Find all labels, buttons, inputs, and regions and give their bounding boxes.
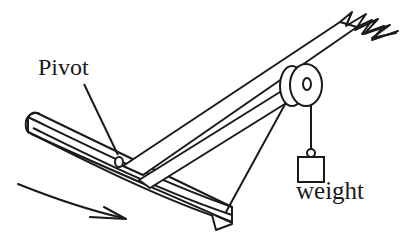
diagram-canvas bbox=[0, 0, 403, 248]
pulley-axle-hole bbox=[303, 78, 311, 90]
motion-arrow bbox=[18, 184, 126, 219]
weight-hanging-ring bbox=[307, 149, 315, 157]
pulley-wheel bbox=[280, 64, 322, 106]
pivot-label: Pivot bbox=[38, 55, 89, 79]
lever-beam-body bbox=[123, 22, 357, 175]
pivot-point bbox=[115, 157, 123, 167]
weight-label: weight bbox=[296, 178, 364, 203]
motion-arrow-arc bbox=[18, 184, 123, 218]
physics-diagram: Pivot weight bbox=[0, 0, 403, 248]
